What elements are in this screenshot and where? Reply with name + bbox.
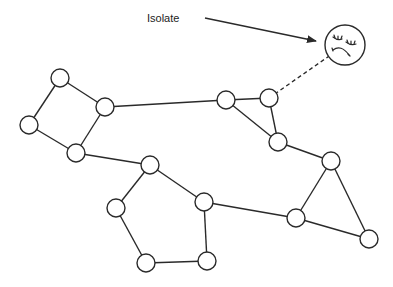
isolate-circle [325, 25, 365, 65]
node-M [107, 199, 125, 217]
node-L [195, 193, 213, 211]
isolate-label: Isolate [147, 12, 179, 24]
node-O [198, 252, 216, 270]
edge-I-J [296, 218, 369, 239]
node-K [141, 156, 159, 174]
nodes-layer [20, 69, 378, 272]
edge-D-K [76, 153, 150, 165]
edge-H-I [296, 161, 331, 218]
node-J [360, 230, 378, 248]
network-diagram [0, 0, 393, 287]
node-H [322, 152, 340, 170]
edge-K-L [150, 165, 204, 202]
node-A [51, 69, 69, 87]
edge-H-J [331, 161, 369, 239]
node-F [260, 89, 278, 107]
node-C [20, 116, 38, 134]
annotation-arrow [205, 18, 316, 41]
node-D [67, 144, 85, 162]
edge-B-E [105, 100, 226, 107]
node-I [287, 209, 305, 227]
node-G [269, 133, 287, 151]
edge-L-I [204, 202, 296, 218]
node-N [137, 254, 155, 272]
edges-layer [29, 78, 369, 263]
node-E [217, 91, 235, 109]
node-B [96, 98, 114, 116]
isolate-node [325, 25, 365, 65]
